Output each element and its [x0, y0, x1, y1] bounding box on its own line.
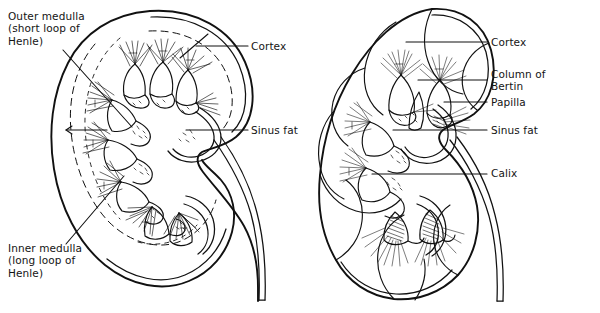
inner-medulla-pointer: [66, 176, 124, 244]
right-lobe-arc-10: [415, 259, 425, 300]
left-sinus-fat-stipple: [179, 130, 195, 142]
left-kidney-inner-contour: [151, 17, 246, 132]
left-calyx-5: [133, 159, 152, 184]
left-renal-pelvis-2: [168, 108, 221, 162]
right-calyx-stipple: [387, 113, 445, 190]
left-calyx-4: [131, 121, 150, 146]
label-cortex-right: Cortex: [491, 36, 591, 48]
label-outer-medulla: Outer medulla (short loop of Henle): [8, 10, 118, 47]
label-papilla: Papilla: [491, 96, 591, 108]
left-kidney-outline: [150, 11, 258, 301]
label-calix: Calix: [491, 167, 591, 179]
left-pyramid-2: [150, 62, 173, 97]
label-inner-medulla: Inner medulla (long loop of Henle): [8, 242, 118, 279]
right-lobe-arc-2: [425, 9, 463, 94]
right-lobe-arc-3: [462, 43, 489, 110]
label-sinus-fat-left: Sinus fat: [251, 124, 331, 136]
left-ureter-outer: [214, 140, 259, 300]
left-pyramid-1: [123, 64, 145, 98]
label-column-of-bertin: Column of Bertin: [491, 68, 591, 93]
right-renal-pelvis: [405, 109, 448, 158]
label-sinus-fat-right: Sinus fat: [491, 124, 591, 136]
kidney-anatomy-figure: Outer medulla (short loop of Henle) Inne…: [0, 0, 600, 313]
left-calyx-stipple: [133, 100, 189, 230]
left-renal-pelvis: [173, 112, 214, 157]
right-pyramid-1: [389, 75, 415, 115]
right-lobe-arc-8: [378, 215, 404, 299]
right-lobe-arc-1: [364, 22, 396, 115]
right-kidney-inner-contour-lower: [341, 262, 452, 294]
right-calyx-1: [389, 110, 416, 125]
label-cortex-left: Cortex: [251, 40, 321, 52]
right-kidney-diagram: [319, 9, 504, 301]
right-papilla-hatching: [387, 116, 444, 241]
left-medullary-rays: [83, 39, 220, 239]
right-pyramid-3: [362, 122, 394, 156]
left-renal-pelvis-inferior: [186, 196, 215, 254]
left-pyramid-3: [176, 70, 197, 105]
right-kidney-outline: [319, 9, 494, 299]
right-pyramid-4: [358, 168, 390, 202]
right-ureter-inner: [457, 137, 503, 301]
